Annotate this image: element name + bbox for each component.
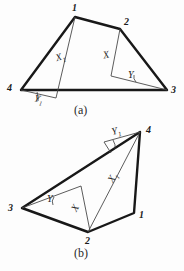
figure-b-annotation-y-base: Y	[47, 193, 53, 204]
diagram-svg	[0, 0, 184, 271]
geometry-diagram-canvas: 1 2 3 4 X1 X Y Y1 (a) 4 3 2 1 Y1 X1 X Y …	[0, 0, 184, 271]
figure-b-outline	[22, 132, 140, 232]
figure-a-vertex-label-3: 3	[171, 85, 176, 95]
figure-a-annotation-y-base: Y	[128, 69, 134, 80]
figure-a-angle-arc-at-3	[134, 75, 136, 82]
figure-a-vertex-label-2: 2	[124, 17, 129, 27]
figure-a-vertex-label-4: 4	[7, 83, 12, 93]
figure-b-vertex-label-2: 2	[85, 236, 90, 246]
figure-b-inner-to-2	[81, 186, 90, 231]
figure-b-vertex-label-3: 3	[8, 203, 13, 213]
figure-a-caption: (a)	[74, 104, 87, 116]
figure-b-caption: (b)	[74, 247, 88, 259]
figure-a-annotation-y: Y	[128, 70, 134, 80]
figure-b-vertex-label-1: 1	[139, 210, 144, 220]
figure-a-vertex-label-1: 1	[72, 3, 77, 13]
figure-b-spur-top-down	[104, 142, 111, 153]
figure-a-group	[21, 17, 167, 101]
figure-a-spur-from-2	[111, 29, 120, 76]
figure-b-annotation-y: Y	[47, 194, 53, 204]
figure-b-vertex-label-4: 4	[146, 125, 151, 135]
figure-a-outline	[21, 17, 167, 90]
figure-b-group	[22, 132, 140, 232]
